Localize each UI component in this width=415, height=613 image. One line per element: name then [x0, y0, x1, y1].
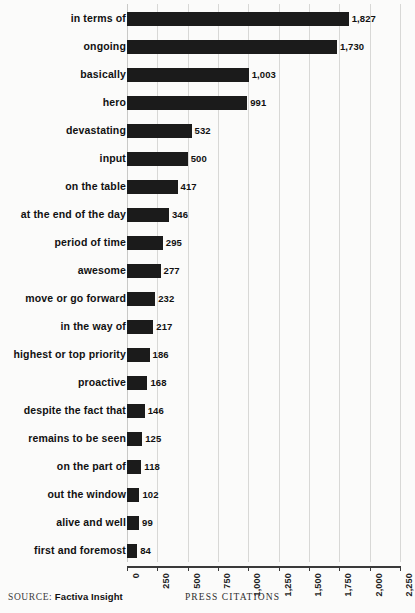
bar-row: despite the fact that146 [0, 404, 415, 418]
x-axis-tick [370, 566, 371, 571]
bar-value-label: 277 [164, 263, 180, 279]
x-axis-tick [400, 566, 401, 571]
bar [127, 180, 178, 194]
bar [127, 320, 153, 334]
x-axis-tick [127, 566, 128, 571]
bar-row: highest or top priority186 [0, 348, 415, 362]
bar [127, 236, 163, 250]
bar [127, 516, 139, 530]
bar-value-label: 1,003 [252, 67, 276, 83]
bar-value-label: 295 [166, 235, 182, 251]
bar [127, 264, 161, 278]
bars-layer: in terms of1,827ongoing1,730basically1,0… [0, 0, 415, 566]
bar-category-label: hero [0, 94, 126, 111]
bar [127, 124, 192, 138]
bar [127, 40, 337, 54]
bar-value-label: 99 [142, 515, 153, 531]
bar-category-label: devastating [0, 122, 126, 139]
bar-category-label: awesome [0, 262, 126, 279]
bar-row: out the window102 [0, 488, 415, 502]
bar-category-label: in terms of [0, 10, 126, 27]
bar-value-label: 146 [148, 403, 164, 419]
bar [127, 376, 147, 390]
bar-row: in terms of1,827 [0, 12, 415, 26]
bar-row: awesome277 [0, 264, 415, 278]
bar [127, 152, 188, 166]
bar-value-label: 1,730 [340, 39, 364, 55]
bar-row: input500 [0, 152, 415, 166]
bar [127, 12, 349, 26]
bar-value-label: 118 [144, 459, 160, 475]
bar-value-label: 532 [195, 123, 211, 139]
bar-row: alive and well99 [0, 516, 415, 530]
bar-row: period of time295 [0, 236, 415, 250]
bar-value-label: 991 [250, 95, 266, 111]
bar-row: ongoing1,730 [0, 40, 415, 54]
bar-value-label: 168 [150, 375, 166, 391]
bar-category-label: input [0, 150, 126, 167]
bar-category-label: remains to be seen [0, 430, 126, 447]
x-axis-tick [157, 566, 158, 571]
x-axis-tick [248, 566, 249, 571]
bar-row: move or go forward232 [0, 292, 415, 306]
bar-row: at the end of the day346 [0, 208, 415, 222]
bar-row: in the way of217 [0, 320, 415, 334]
x-axis-tick [339, 566, 340, 571]
bar [127, 208, 169, 222]
bar-value-label: 125 [145, 431, 161, 447]
bar-category-label: basically [0, 66, 126, 83]
bar-row: remains to be seen125 [0, 432, 415, 446]
bar [127, 432, 142, 446]
bar-row: hero991 [0, 96, 415, 110]
bar-row: proactive168 [0, 376, 415, 390]
bar-row: devastating532 [0, 124, 415, 138]
bar-value-label: 417 [181, 179, 197, 195]
x-axis-tick [218, 566, 219, 571]
x-axis-tick [188, 566, 189, 571]
bar-row: on the part of118 [0, 460, 415, 474]
bar-category-label: in the way of [0, 318, 126, 335]
bar [127, 292, 155, 306]
x-axis-tick [279, 566, 280, 571]
bar-category-label: despite the fact that [0, 402, 126, 419]
bar-row: on the table417 [0, 180, 415, 194]
plot-area: in terms of1,827ongoing1,730basically1,0… [0, 0, 415, 566]
x-axis-tick [309, 566, 310, 571]
bar-value-label: 346 [172, 207, 188, 223]
x-axis-title: PRESS CITATIONS [0, 592, 415, 602]
bar-chart-figure: in terms of1,827ongoing1,730basically1,0… [0, 0, 415, 613]
bar-category-label: on the table [0, 178, 126, 195]
bar-row: basically1,003 [0, 68, 415, 82]
bar-value-label: 84 [140, 543, 151, 559]
bar-category-label: alive and well [0, 514, 126, 531]
bar-value-label: 1,827 [352, 11, 376, 27]
x-axis-tick-label: 0 [131, 573, 141, 578]
bar [127, 348, 150, 362]
bar-row: first and foremost84 [0, 544, 415, 558]
bar-category-label: first and foremost [0, 542, 126, 559]
chart-footer: SOURCE: Factiva Insight PRESS CITATIONS [0, 587, 415, 613]
bar-value-label: 217 [156, 319, 172, 335]
bar-category-label: at the end of the day [0, 206, 126, 223]
bar-category-label: out the window [0, 486, 126, 503]
bar-category-label: on the part of [0, 458, 126, 475]
bar [127, 544, 137, 558]
bar-category-label: highest or top priority [0, 346, 126, 363]
bar [127, 404, 145, 418]
bar [127, 68, 249, 82]
bar [127, 488, 139, 502]
bar-category-label: period of time [0, 234, 126, 251]
bar-value-label: 102 [142, 487, 158, 503]
bar-value-label: 186 [153, 347, 169, 363]
bar-category-label: ongoing [0, 38, 126, 55]
bar-category-label: move or go forward [0, 290, 126, 307]
bar [127, 96, 247, 110]
bar-value-label: 232 [158, 291, 174, 307]
bar-category-label: proactive [0, 374, 126, 391]
x-axis-line [127, 566, 401, 568]
bar [127, 460, 141, 474]
bar-value-label: 500 [191, 151, 207, 167]
